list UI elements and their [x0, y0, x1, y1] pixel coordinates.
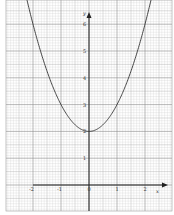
x-tick-label: -2 [29, 186, 34, 192]
y-tick-label: 1 [83, 155, 86, 161]
parabola-graph: -2-1012 123456 x y [0, 0, 174, 215]
x-axis-label: x [156, 188, 159, 194]
y-tick-label: 3 [83, 102, 86, 108]
y-tick-label: 5 [83, 48, 86, 54]
x-tick-label: 2 [144, 186, 147, 192]
x-tick-label: 1 [116, 186, 119, 192]
y-tick-label: 6 [83, 21, 86, 27]
x-tick-label: -1 [57, 186, 62, 192]
y-axis-label: y [82, 10, 86, 17]
x-tick-labels: -2-1012 [29, 186, 147, 192]
y-tick-label: 4 [83, 75, 86, 81]
y-axis-arrow-icon [87, 12, 92, 18]
x-tick-label: 0 [88, 186, 91, 192]
y-tick-label: 2 [83, 128, 86, 134]
x-axis-arrow-icon [162, 183, 168, 188]
